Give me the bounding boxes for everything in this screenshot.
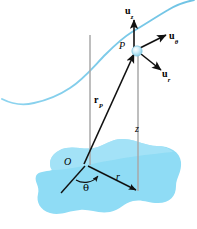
unit-vector-theta-arrow: [140, 35, 166, 48]
label-unit-vector-theta: uθ: [169, 31, 178, 44]
label-height-z: z: [135, 124, 139, 134]
label-radius-r: r: [116, 172, 120, 182]
figure-canvas: [0, 0, 197, 229]
label-origin: O: [64, 157, 71, 167]
point-p-sphere: [132, 46, 142, 56]
space-curve: [2, 0, 194, 104]
label-unit-vector-r: ur: [162, 69, 170, 82]
unit-vector-r-arrow: [141, 54, 161, 70]
cylindrical-coordinates-figure: uz uθ ur P rP z O θ r: [0, 0, 197, 229]
label-position-vector: rP: [94, 95, 102, 108]
label-unit-vector-z: uz: [125, 6, 133, 19]
particle-path: [2, 0, 194, 104]
label-angle-theta: θ: [83, 183, 89, 193]
label-point-p: P: [119, 41, 125, 51]
